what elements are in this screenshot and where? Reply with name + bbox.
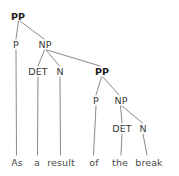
leaf-word-the: the — [112, 158, 128, 168]
leaf-word-of: of — [89, 158, 98, 168]
leaf-word-a: a — [34, 158, 40, 168]
leaf-word-result: result — [47, 158, 74, 168]
leaf-word-as: As — [11, 158, 23, 168]
syntax-tree-figure: PP P NP DET N PP P NP DET N As a result … — [0, 0, 179, 176]
leaf-word-break: break — [135, 158, 162, 168]
tree-leaf-words: As a result of the break — [0, 0, 179, 176]
